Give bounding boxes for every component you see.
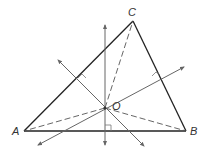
label-c: C xyxy=(128,6,136,18)
label-b: B xyxy=(190,125,197,137)
label-a: A xyxy=(11,125,19,137)
bisector-ac xyxy=(58,60,144,146)
point-o xyxy=(103,106,106,109)
segment-oc xyxy=(105,21,133,108)
side-bc xyxy=(133,21,186,131)
triangle-diagram: A B C O xyxy=(0,0,209,156)
label-o: O xyxy=(112,100,121,112)
side-ac xyxy=(24,21,133,131)
right-angle-ab xyxy=(105,125,111,131)
bisector-bc xyxy=(38,67,184,145)
